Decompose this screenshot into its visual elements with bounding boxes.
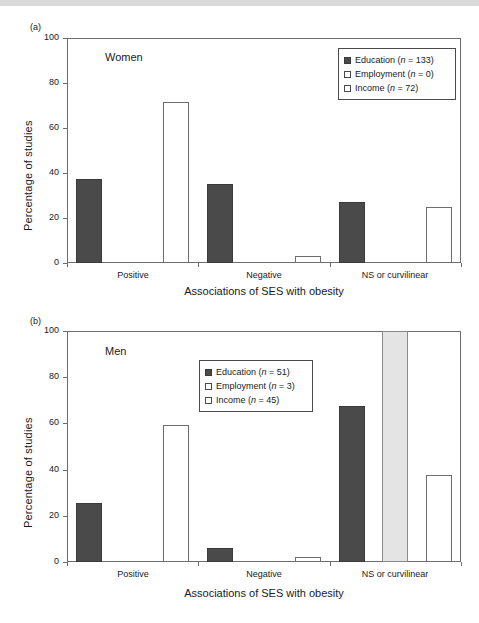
bar-education	[339, 202, 365, 263]
panel-b-x-tick-mark	[330, 562, 331, 566]
panel-a-y-tick-label: 60	[25, 122, 59, 132]
legend-item-education: Education (n = 51)	[205, 365, 306, 379]
bar-income	[295, 256, 321, 263]
bar-education	[339, 406, 365, 562]
panel-b-y-tick-label: 20	[25, 510, 59, 520]
legend-item-label: Employment (n = 0)	[355, 69, 434, 79]
panel-a-y-tick-label: 40	[25, 167, 59, 177]
panel-b-y-tick-mark	[63, 423, 67, 424]
bar-education	[76, 179, 102, 263]
panel-b-x-tick-mark	[67, 562, 68, 566]
bar-income	[426, 475, 452, 562]
panel-a-y-tick-label: 0	[25, 257, 59, 267]
bar-employment	[382, 331, 408, 562]
panel-a-y-tick-label: 80	[25, 77, 59, 87]
bar-income	[163, 102, 189, 263]
bar-education	[76, 503, 102, 562]
panel-b-series-title: Men	[105, 345, 126, 357]
panel-a-x-tick-label: Negative	[204, 270, 324, 280]
bar-income	[426, 207, 452, 263]
employment-swatch-icon	[205, 383, 212, 390]
bar-income	[163, 425, 189, 562]
panel-b-y-tick-mark	[63, 470, 67, 471]
legend-item-employment: Employment (n = 3)	[205, 379, 306, 393]
education-swatch-icon	[205, 369, 212, 376]
panel-a-x-axis-label: Associations of SES with obesity	[67, 285, 461, 297]
panel-a-x-tick-mark	[330, 263, 331, 267]
legend-item-label: Income (n = 72)	[355, 83, 418, 93]
panel-a-x-tick-label: Positive	[73, 270, 193, 280]
panel-a-y-tick-mark	[63, 218, 67, 219]
panel-a-y-tick-label: 100	[25, 32, 59, 42]
panel-b-x-tick-label: Positive	[73, 569, 193, 579]
panel-b-y-tick-mark	[63, 516, 67, 517]
panel-b-x-axis-label: Associations of SES with obesity	[67, 587, 461, 599]
legend-item-income: Income (n = 72)	[344, 81, 449, 95]
panel-b-x-tick-mark	[198, 562, 199, 566]
panel-a-legend: Education (n = 133)Employment (n = 0)Inc…	[338, 48, 456, 100]
panel-b-y-tick-label: 0	[25, 556, 59, 566]
panel-a-y-tick-mark	[63, 173, 67, 174]
panel-a-y-tick-label: 20	[25, 212, 59, 222]
employment-swatch-icon	[344, 71, 351, 78]
panel-b-x-tick-label: NS or curvilinear	[335, 569, 455, 579]
education-swatch-icon	[344, 57, 351, 64]
legend-item-label: Employment (n = 3)	[216, 381, 295, 391]
legend-item-education: Education (n = 133)	[344, 53, 449, 67]
panel-a-x-tick-label: NS or curvilinear	[335, 270, 455, 280]
panel-b-y-tick-label: 100	[25, 325, 59, 335]
panel-b-y-tick-mark	[63, 331, 67, 332]
bar-education	[207, 184, 233, 263]
panel-a-x-tick-mark	[67, 263, 68, 267]
panel-b-men: (b) Percentage of studies Men 0204060801…	[0, 306, 479, 623]
legend-item-label: Income (n = 45)	[216, 395, 279, 405]
panel-a-y-tick-mark	[63, 38, 67, 39]
panel-a-x-tick-mark	[198, 263, 199, 267]
panel-b-y-tick-label: 80	[25, 371, 59, 381]
panel-a-y-tick-mark	[63, 83, 67, 84]
income-swatch-icon	[344, 85, 351, 92]
legend-item-income: Income (n = 45)	[205, 393, 306, 407]
panel-a-y-tick-mark	[63, 128, 67, 129]
income-swatch-icon	[205, 397, 212, 404]
figure-container: (a) Percentage of studies Women 02040608…	[0, 0, 479, 623]
legend-item-label: Education (n = 51)	[216, 367, 290, 377]
panel-b-y-tick-label: 60	[25, 417, 59, 427]
panel-a-women: (a) Percentage of studies Women 02040608…	[0, 6, 479, 306]
bar-education	[207, 548, 233, 562]
panel-a-x-tick-mark	[461, 263, 462, 267]
panel-a-tag: (a)	[30, 22, 41, 32]
bar-income	[295, 557, 321, 562]
panel-b-y-tick-label: 40	[25, 464, 59, 474]
panel-b-y-tick-mark	[63, 377, 67, 378]
panel-b-legend: Education (n = 51)Employment (n = 3)Inco…	[199, 360, 313, 412]
panel-a-series-title: Women	[105, 51, 143, 63]
panel-b-x-tick-mark	[461, 562, 462, 566]
legend-item-employment: Employment (n = 0)	[344, 67, 449, 81]
legend-item-label: Education (n = 133)	[355, 55, 434, 65]
panel-b-x-tick-label: Negative	[204, 569, 324, 579]
